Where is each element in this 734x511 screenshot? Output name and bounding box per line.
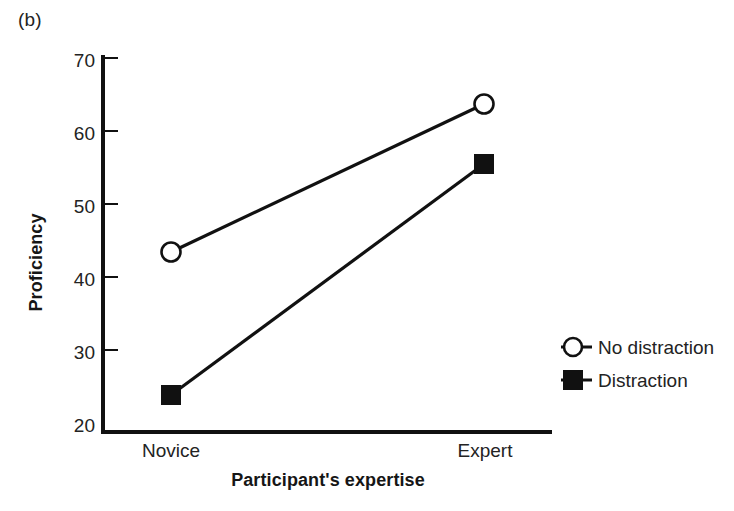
legend-marker-distraction xyxy=(561,371,592,389)
data-point-distraction-expert xyxy=(475,155,493,173)
data-point-distraction-novice xyxy=(162,386,180,404)
legend-marker-no-distraction xyxy=(561,338,592,356)
filled-square-icon xyxy=(564,371,582,389)
plot-area xyxy=(0,0,734,511)
y-tick-marks xyxy=(104,58,118,350)
figure-panel-b: (b) Proficiency Participant's expertise … xyxy=(0,0,734,511)
series-no-distraction xyxy=(162,95,494,262)
open-circle-icon xyxy=(564,338,582,356)
data-point-no-distraction-expert xyxy=(475,95,494,114)
series-distraction xyxy=(162,155,493,404)
data-point-no-distraction-novice xyxy=(162,243,181,262)
